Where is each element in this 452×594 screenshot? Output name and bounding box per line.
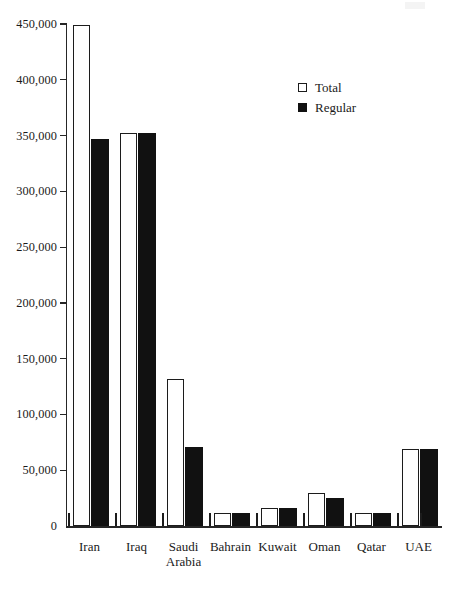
y-axis-tick (60, 358, 67, 359)
x-axis-category-label-line: UAE (405, 539, 432, 554)
bar-qatar-total (355, 513, 373, 526)
x-axis-group-tick (115, 513, 117, 526)
y-axis-tick (60, 302, 67, 303)
y-axis-tick-label: 100,000 (16, 408, 57, 420)
legend-item-total: Total (298, 78, 356, 96)
x-axis-group-tick (162, 513, 164, 526)
legend-label-regular: Regular (315, 101, 356, 114)
x-axis-category-label-line: Oman (309, 539, 341, 554)
y-axis-tick-label: 400,000 (16, 74, 57, 86)
x-axis-group-tick (68, 513, 70, 526)
x-axis-group-tick (350, 513, 352, 526)
legend-swatch-regular-icon (298, 103, 307, 112)
bar-iran-regular (91, 139, 109, 526)
bar-iraq-regular (138, 133, 156, 526)
bar-kuwait-regular (279, 508, 297, 526)
y-axis-tick (60, 414, 67, 415)
x-axis-category-label-line: Iran (79, 539, 100, 554)
bar-saudi-arabia-total (167, 379, 185, 526)
y-axis-line (66, 24, 67, 526)
y-axis-tick-label: 350,000 (16, 130, 57, 142)
y-axis-tick (60, 23, 67, 24)
y-axis-tick (60, 135, 67, 136)
y-axis-tick (60, 79, 67, 80)
bar-chart-figure: 050,000100,000150,000200,000250,000300,0… (0, 0, 452, 594)
legend-item-regular: Regular (298, 98, 356, 116)
x-axis-group-tick (397, 513, 399, 526)
y-axis-tick-label: 300,000 (16, 185, 57, 197)
bar-bahrain-regular (232, 513, 250, 526)
x-axis-group-tick (420, 513, 422, 526)
y-axis-tick-label: 0 (51, 520, 57, 532)
legend-swatch-total-icon (298, 83, 307, 92)
x-axis-category-label-line: Iraq (126, 539, 147, 554)
bar-uae-regular (420, 449, 438, 526)
y-axis-tick-label: 50,000 (23, 464, 57, 476)
page-scan-artifact (405, 2, 425, 9)
y-axis-tick (60, 247, 67, 248)
y-axis-tick-label: 450,000 (16, 18, 57, 30)
x-axis-category-label: UAE (385, 540, 452, 555)
bar-qatar-regular (373, 513, 391, 526)
bar-kuwait-total (261, 508, 279, 526)
bar-iraq-total (120, 133, 138, 526)
y-axis-tick (60, 470, 67, 471)
bar-iran-total (73, 25, 91, 526)
y-axis-tick-label: 150,000 (16, 353, 57, 365)
y-axis-tick-label: 200,000 (16, 297, 57, 309)
x-axis-category-label-line: Saudi (169, 539, 199, 554)
x-axis-category-label-line: Arabia (150, 555, 217, 570)
bar-uae-total (402, 449, 420, 526)
x-axis-category-label-line: Qatar (357, 539, 386, 554)
bar-saudi-arabia-regular (185, 447, 203, 526)
bar-bahrain-total (214, 513, 232, 526)
x-axis-group-tick (303, 513, 305, 526)
y-axis-tick-label: 250,000 (16, 241, 57, 253)
chart-legend: Total Regular (298, 78, 356, 118)
y-axis-tick (60, 191, 67, 192)
bar-oman-regular (326, 498, 344, 526)
legend-label-total: Total (315, 81, 342, 94)
x-axis-group-tick (209, 513, 211, 526)
bar-oman-total (308, 493, 326, 526)
x-axis-line (66, 526, 442, 528)
plot-area (66, 24, 442, 526)
x-axis-group-tick (256, 513, 258, 526)
